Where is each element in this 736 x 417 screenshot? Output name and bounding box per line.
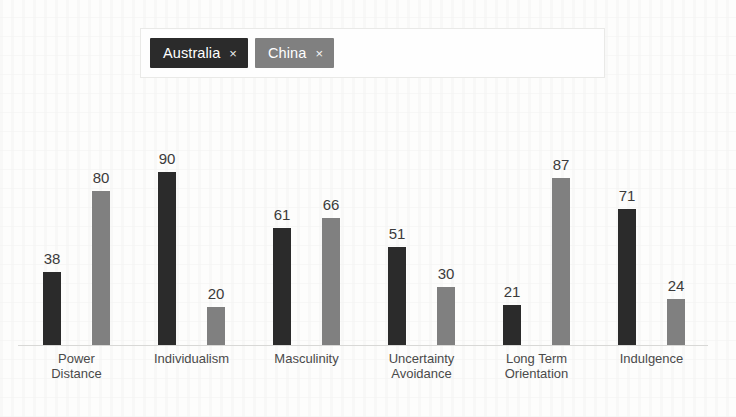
bar[interactable] xyxy=(322,218,340,345)
category-label: Masculinity xyxy=(253,351,360,366)
bar-group: 2187 xyxy=(503,96,570,345)
category-label: Individualism xyxy=(138,351,245,366)
legend-chip-australia[interactable]: Australia × xyxy=(150,38,248,68)
bar-value-label: 90 xyxy=(159,151,176,166)
bar-slot: 71 xyxy=(618,96,636,345)
bar-value-label: 51 xyxy=(389,226,406,241)
bar[interactable] xyxy=(43,272,61,345)
bar[interactable] xyxy=(388,247,406,345)
bar-slot: 66 xyxy=(322,96,340,345)
bar-slot: 21 xyxy=(503,96,521,345)
remove-icon[interactable]: × xyxy=(229,47,237,60)
legend-chip-label: China xyxy=(268,45,306,61)
legend-panel: Australia × China × xyxy=(140,28,605,78)
bar-slot: 24 xyxy=(667,96,685,345)
bar-value-label: 30 xyxy=(438,266,455,281)
bar-value-label: 71 xyxy=(619,188,636,203)
bar-value-label: 66 xyxy=(323,197,340,212)
bar-slot: 30 xyxy=(437,96,455,345)
bar-value-label: 80 xyxy=(93,170,110,185)
bar-slot: 38 xyxy=(43,96,61,345)
bar-chart: 388090206166513021877124 Power DistanceI… xyxy=(0,96,736,417)
bar-slot: 51 xyxy=(388,96,406,345)
bar[interactable] xyxy=(503,305,521,345)
remove-icon[interactable]: × xyxy=(315,47,323,60)
bar[interactable] xyxy=(92,191,110,345)
bar-value-label: 38 xyxy=(44,251,61,266)
bar[interactable] xyxy=(207,307,225,345)
bar-group: 6166 xyxy=(273,96,340,345)
bar-value-label: 87 xyxy=(553,157,570,172)
bar-value-label: 24 xyxy=(668,278,685,293)
bar[interactable] xyxy=(273,228,291,345)
bar-slot: 90 xyxy=(158,96,176,345)
bar-slot: 61 xyxy=(273,96,291,345)
bar-value-label: 61 xyxy=(274,207,291,222)
category-labels: Power DistanceIndividualismMasculinityUn… xyxy=(18,351,708,411)
legend-chip-china[interactable]: China × xyxy=(255,38,334,68)
bar[interactable] xyxy=(158,172,176,345)
bar-group: 3880 xyxy=(43,96,110,345)
bar[interactable] xyxy=(437,287,455,345)
bar[interactable] xyxy=(667,299,685,345)
legend-chip-label: Australia xyxy=(163,45,220,61)
bar-value-label: 21 xyxy=(504,284,521,299)
bar-group: 9020 xyxy=(158,96,225,345)
category-label: Long Term Orientation xyxy=(483,351,590,381)
category-label: Uncertainty Avoidance xyxy=(368,351,475,381)
bar-slot: 80 xyxy=(92,96,110,345)
bar[interactable] xyxy=(552,178,570,345)
bar-slot: 87 xyxy=(552,96,570,345)
bar-slot: 20 xyxy=(207,96,225,345)
category-label: Indulgence xyxy=(598,351,705,366)
bar-value-label: 20 xyxy=(208,286,225,301)
bar-group: 5130 xyxy=(388,96,455,345)
category-label: Power Distance xyxy=(23,351,130,381)
x-axis-baseline xyxy=(18,345,708,346)
bar[interactable] xyxy=(618,209,636,345)
bars-layer: 388090206166513021877124 xyxy=(18,96,708,345)
bar-group: 7124 xyxy=(618,96,685,345)
